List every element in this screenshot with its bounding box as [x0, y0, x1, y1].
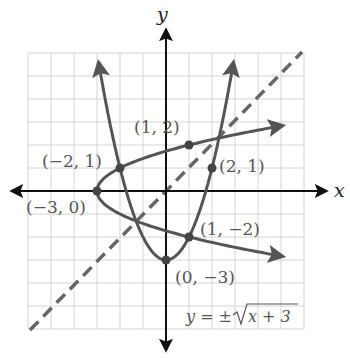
graph-canvas: y x (1, 2) (−2, 1) (2, 1) (−3, 0) (1, −2… — [0, 0, 350, 358]
point-dot — [185, 233, 194, 242]
point-label-0-m3: (0, −3) — [175, 267, 235, 287]
point-label-1-m2: (1, −2) — [200, 219, 260, 239]
point-dot — [93, 187, 102, 196]
point-label-m2-1: (−2, 1) — [42, 151, 102, 171]
point-dot — [116, 164, 125, 173]
parabola-right-arrow — [232, 63, 234, 74]
y-axis-label: y — [156, 3, 168, 25]
equation-radicand: x + 3 — [248, 307, 291, 326]
point-dot — [162, 256, 171, 265]
x-axis-label: x — [334, 179, 345, 201]
parabola-left-arrow — [99, 63, 101, 74]
point-dot — [185, 141, 194, 150]
point-label-1-2: (1, 2) — [134, 117, 180, 137]
point-label-2-1: (2, 1) — [219, 156, 265, 176]
point-dot — [208, 164, 217, 173]
point-label-m3-0: (−3, 0) — [26, 197, 86, 217]
equation-lhs: y = ± — [185, 307, 232, 326]
equation-label: y = ± x + 3 — [185, 304, 298, 326]
